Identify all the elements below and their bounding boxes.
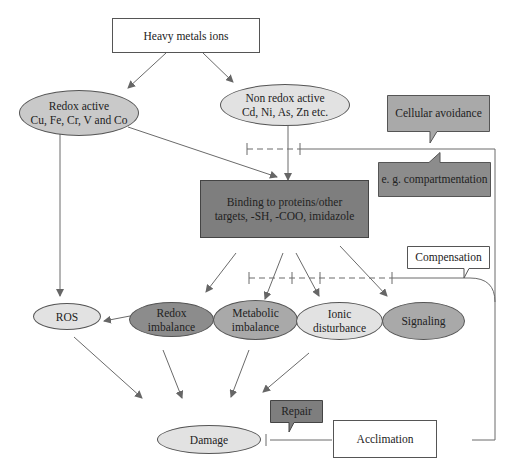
signaling-ellipse: Signaling bbox=[382, 302, 465, 340]
binding-line2: targets, -SH, -COO, imidazole bbox=[215, 209, 355, 223]
binding-box: Binding to proteins/other targets, -SH, … bbox=[200, 180, 369, 238]
redox-imbalance-line2: imbalance bbox=[148, 320, 195, 334]
non-redox-active-ellipse: Non redox active Cd, Ni, As, Zn etc. bbox=[220, 84, 350, 126]
redox-imbalance-ellipse: Redox imbalance bbox=[129, 302, 214, 337]
compensation-label: Compensation bbox=[415, 251, 481, 263]
ros-ellipse: ROS bbox=[33, 303, 101, 330]
compartmentation-label: e. g. compartmentation bbox=[381, 173, 487, 185]
cellular-avoidance-callout: Cellular avoidance bbox=[387, 95, 490, 144]
ionic-disturbance-line2: disturbance bbox=[313, 321, 366, 335]
acclimation-box: Acclimation bbox=[333, 420, 437, 458]
redox-imbalance-line1: Redox bbox=[156, 306, 186, 320]
heavy-metals-ions-label: Heavy metals ions bbox=[144, 29, 229, 43]
redox-active-line2: Cu, Fe, Cr, V and Co bbox=[31, 113, 128, 127]
acclimation-label: Acclimation bbox=[357, 432, 414, 446]
ionic-disturbance-ellipse: Ionic disturbance bbox=[296, 302, 383, 340]
metabolic-imbalance-ellipse: Metabolic imbalance bbox=[213, 300, 298, 340]
metabolic-imbalance-line1: Metabolic bbox=[232, 306, 279, 320]
metabolic-imbalance-line2: imbalance bbox=[232, 320, 279, 334]
cellular-avoidance-label: Cellular avoidance bbox=[395, 107, 482, 119]
non-redox-active-line1: Non redox active bbox=[245, 91, 324, 105]
redox-active-line1: Redox active bbox=[49, 99, 109, 113]
damage-ellipse: Damage bbox=[157, 425, 261, 454]
redox-active-ellipse: Redox active Cu, Fe, Cr, V and Co bbox=[19, 90, 139, 136]
damage-label: Damage bbox=[190, 433, 228, 447]
ionic-disturbance-line1: Ionic bbox=[328, 307, 352, 321]
compensation-callout: Compensation bbox=[407, 246, 490, 279]
compartmentation-callout: e. g. compartmentation bbox=[378, 152, 491, 197]
binding-line1: Binding to proteins/other bbox=[227, 195, 343, 209]
ros-label: ROS bbox=[56, 310, 78, 324]
repair-label: Repair bbox=[281, 405, 312, 417]
repair-callout: Repair bbox=[270, 400, 323, 433]
signaling-label: Signaling bbox=[401, 314, 445, 328]
heavy-metals-ions-box: Heavy metals ions bbox=[112, 18, 260, 53]
non-redox-active-line2: Cd, Ni, As, Zn etc. bbox=[242, 105, 328, 119]
